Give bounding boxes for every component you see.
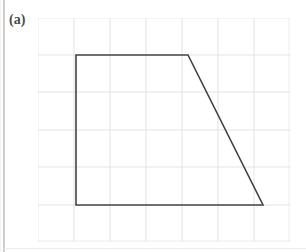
figure-label: (a) — [9, 12, 25, 28]
figure-panel: (a) — [0, 0, 306, 252]
page-bottom-rule — [4, 248, 306, 249]
grid-area — [38, 18, 290, 242]
page-edge-artifact — [3, 0, 5, 252]
page-edge-artifact-outer — [0, 0, 1, 252]
grid-and-shape-svg — [38, 18, 290, 242]
